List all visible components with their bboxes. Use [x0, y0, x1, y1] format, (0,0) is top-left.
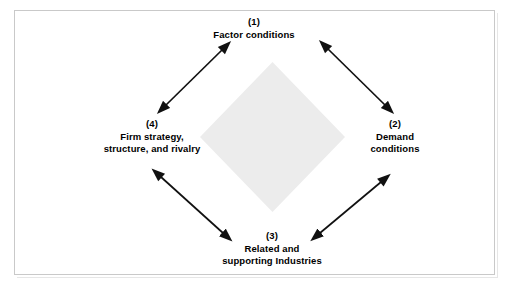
node-number-4: (4): [78, 118, 226, 131]
arrow-firm-to-related: [161, 177, 223, 233]
node-number-3: (3): [182, 230, 362, 243]
node-label-related-supporting-industries: (3) Related and supporting Industries: [182, 230, 362, 268]
node-number-2: (2): [336, 118, 454, 131]
node-label-demand-conditions: (2) Demand conditions: [336, 118, 454, 156]
node-number-1: (1): [180, 16, 328, 29]
node-text-demand-conditions-line1: Demand: [336, 131, 454, 144]
node-text-related-industries-line2: supporting Industries: [182, 255, 362, 268]
arrow-factor-to-firm: [166, 50, 222, 105]
node-label-firm-strategy-structure-rivalry: (4) Firm strategy, structure, and rivalr…: [78, 118, 226, 156]
node-text-factor-conditions-line1: Factor conditions: [180, 29, 328, 42]
node-label-factor-conditions: (1) Factor conditions: [180, 16, 328, 41]
arrow-demand-to-related: [320, 182, 381, 233]
node-text-related-industries-line1: Related and: [182, 243, 362, 256]
node-text-firm-strategy-line2: structure, and rivalry: [78, 143, 226, 156]
node-text-firm-strategy-line1: Firm strategy,: [78, 131, 226, 144]
diagram-canvas: (1) Factor conditions (2) Demand conditi…: [0, 0, 508, 288]
node-text-demand-conditions-line2: conditions: [336, 143, 454, 156]
arrow-factor-to-demand: [328, 49, 385, 105]
